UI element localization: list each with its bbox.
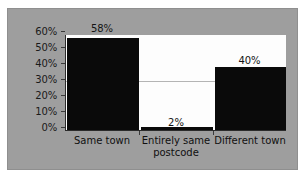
x-axis-label-same-town: Same town [64,135,140,147]
bar-value-label-same-town: 58% [66,23,138,34]
y-tick-mark-60 [61,31,65,32]
x-axis-label-different-town-line1: Different town [212,135,288,147]
x-axis-label-entirely-same-postcode: Entirely same postcode [138,135,214,159]
y-tick-label-0: 0% [15,123,57,133]
y-axis: 60% 50% 40% 30% 20% 10% 0% [16,27,62,139]
y-tick-label-60: 60% [15,27,57,37]
y-tick-label-10: 10% [15,107,57,117]
y-tick-label-40: 40% [15,59,57,69]
figure-canvas: 60% 50% 40% 30% 20% 10% 0% 58% 2% 40% [7,8,298,170]
x-axis-label-different-town: Different town [212,135,288,147]
bar-value-label-entirely-same-postcode: 2% [140,117,212,128]
x-axis-label-same-town-line1: Same town [64,135,140,147]
y-tick-label-20: 20% [15,91,57,101]
bar-value-label-different-town: 40% [214,55,285,66]
bar-same-town [67,38,139,130]
x-axis-label-entirely-same-postcode-line2: postcode [138,147,214,159]
chart-screenshot: 60% 50% 40% 30% 20% 10% 0% 58% 2% 40% [0,0,305,178]
bar-different-town [215,67,286,130]
x-axis-label-entirely-same-postcode-line1: Entirely same [138,135,214,147]
y-tick-label-50: 50% [15,43,57,53]
y-tick-label-30: 30% [15,75,57,85]
